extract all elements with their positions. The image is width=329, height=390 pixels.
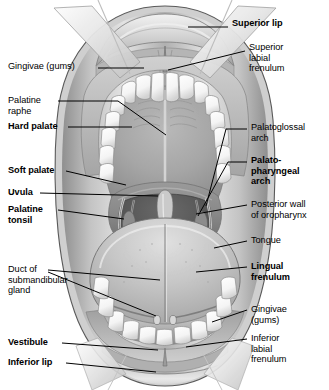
- label-lingual-frenulum: Lingual frenulum: [251, 261, 290, 282]
- label-inferior-lip: Inferior lip: [8, 357, 52, 368]
- label-duct-of-submandibular-gland: Duct of submandibular gland: [8, 264, 68, 296]
- label-gingivae-gums-upper: Gingivae (gums): [8, 61, 75, 72]
- label-palatoglossal-arch: Palatoglossal arch: [251, 122, 305, 143]
- label-hard-palate: Hard palate: [8, 121, 58, 132]
- label-palatopharyngeal-arch: Palato- pharyngeal arch: [251, 155, 300, 187]
- label-inferior-labial-frenulum: Inferior labial frenulum: [251, 333, 286, 365]
- label-posterior-wall-oropharynx: Posterior wall of oropharynx: [251, 199, 307, 220]
- label-palatine-tonsil: Palatine tonsil: [8, 204, 43, 225]
- label-tongue: Tongue: [251, 235, 281, 246]
- label-vestibule: Vestibule: [8, 337, 48, 348]
- label-soft-palate: Soft palate: [8, 165, 54, 176]
- label-uvula: Uvula: [8, 187, 33, 198]
- label-palatine-raphe: Palatine raphe: [8, 95, 41, 116]
- label-gingivae-gums-lower: Gingivae (gums): [251, 304, 287, 325]
- oral-cavity-figure: Superior lip Superior labial frenulum Gi…: [0, 0, 329, 390]
- label-superior-labial-frenulum: Superior labial frenulum: [249, 42, 284, 74]
- label-superior-lip: Superior lip: [232, 18, 282, 29]
